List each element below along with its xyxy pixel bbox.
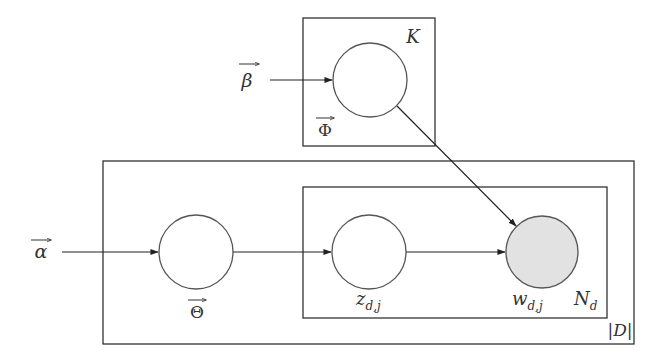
label-theta: Θ [190,302,204,322]
label-z: zd,j [355,288,381,313]
node-w-observed [506,216,578,288]
lda-plate-diagram: β α Φ Θ K zd,j wd,j Nd |D| [0,0,669,364]
node-phi [333,43,407,117]
label-plate-d: |D| [607,320,632,340]
label-alpha: α [35,240,48,262]
label-phi: Φ [318,120,332,140]
label-plate-n: Nd [573,288,598,313]
node-z [332,215,406,289]
label-z-main: z [355,288,366,309]
label-w: wd,j [512,288,543,313]
label-w-main: w [512,288,528,309]
label-n-subscript: d [590,299,598,313]
label-w-subscript: d,j [527,299,542,313]
label-beta: β [241,69,253,91]
label-n-main: N [573,288,591,309]
node-theta [159,215,233,289]
edge-phi-w [397,106,516,226]
label-plate-k: K [405,26,421,47]
label-z-subscript: d,j [365,299,380,313]
